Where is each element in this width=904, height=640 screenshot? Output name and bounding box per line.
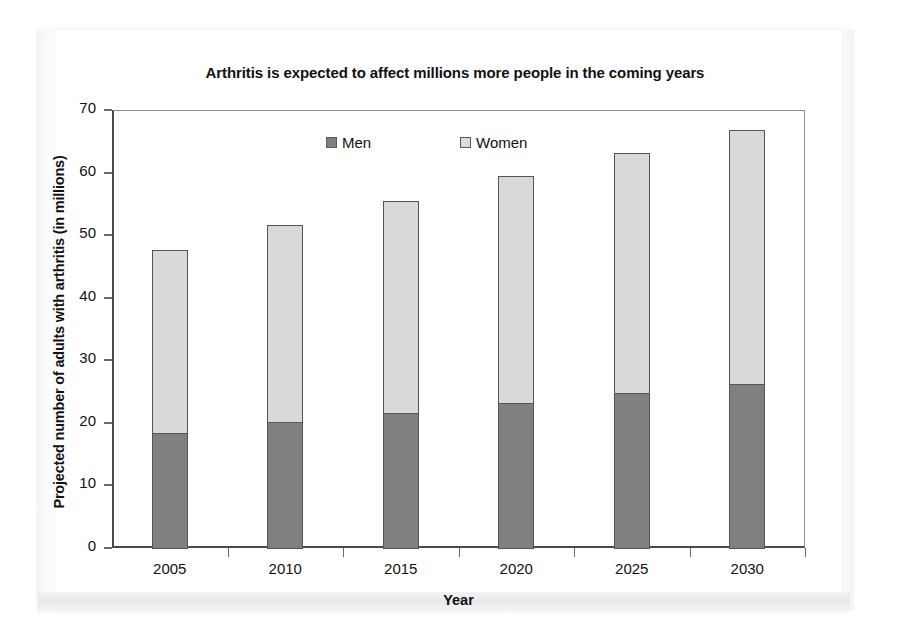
legend-entry-men[interactable]: Men [326,134,371,151]
x-axis-tick-label: 2010 [230,560,340,577]
bar-segment-men[interactable] [498,403,534,549]
bar-segment-women[interactable] [498,176,534,404]
chart-title: Arthritis is expected to affect millions… [175,62,735,83]
x-axis-tick-label: 2015 [346,560,456,577]
x-axis-tick-mark [690,548,691,557]
bar-segment-women[interactable] [614,153,650,394]
y-axis-tick-mark [104,484,112,486]
y-axis-tick-mark [104,359,112,361]
bar-segment-women[interactable] [729,130,765,385]
x-axis-tick-label: 2030 [692,560,802,577]
y-axis-tick-mark [104,234,112,236]
bar-segment-men[interactable] [152,433,188,549]
y-axis-tick-label: 20 [79,412,96,429]
y-axis-tick-label: 30 [79,349,96,366]
x-axis-tick-mark [805,548,806,557]
y-axis-tick-mark [104,109,112,111]
y-axis-tick-mark [104,172,112,174]
y-axis-tick-label: 60 [79,162,96,179]
bar-group[interactable] [498,176,534,548]
bar-group[interactable] [267,225,303,548]
x-axis-tick-mark [228,548,229,557]
bar-segment-women[interactable] [383,201,419,414]
x-axis-tick-mark [459,548,460,557]
x-axis-tick-label: 2020 [461,560,571,577]
x-axis-tick-mark [574,548,575,557]
bar-segment-men[interactable] [729,384,765,549]
y-axis-tick-label: 50 [79,224,96,241]
bar-segment-men[interactable] [614,393,650,549]
bar-group[interactable] [152,250,188,548]
y-axis-tick-mark [104,422,112,424]
y-axis-tick-mark [104,547,112,549]
bar-group[interactable] [614,153,650,548]
legend-label-men: Men [342,134,371,151]
bar-segment-women[interactable] [267,225,303,423]
plot-area [112,110,805,548]
y-axis-tick-label: 10 [79,474,96,491]
bar-group[interactable] [729,130,765,548]
y-axis-tick-label: 70 [79,99,96,116]
x-axis-label: Year [112,592,805,608]
y-axis-label: Projected number of adults with arthriti… [51,122,67,542]
bar-segment-women[interactable] [152,250,188,435]
chart-legend: Men Women [326,134,566,156]
y-axis-tick-label: 40 [79,287,96,304]
legend-label-women: Women [476,134,527,151]
bar-segment-men[interactable] [383,413,419,549]
x-axis-tick-label: 2005 [115,560,225,577]
y-axis-tick-mark [104,297,112,299]
bar-group[interactable] [383,201,419,548]
y-axis-tick-label: 0 [88,537,96,554]
x-axis-tick-label: 2025 [577,560,687,577]
legend-swatch-women-icon [460,137,471,148]
legend-swatch-men-icon [326,137,337,148]
x-axis-tick-mark [343,548,344,557]
bar-segment-men[interactable] [267,422,303,549]
legend-entry-women[interactable]: Women [460,134,527,151]
stacked-bar-chart: Arthritis is expected to affect millions… [0,0,904,640]
